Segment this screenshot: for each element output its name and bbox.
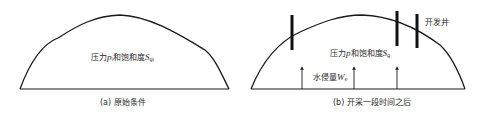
production-wells-label: 开发井: [425, 19, 449, 27]
panel-a-dome-outline: [20, 15, 229, 89]
label-text: 和饱和度: [351, 49, 383, 58]
label-text: 压力: [330, 49, 346, 58]
label-text: 水侵量: [313, 73, 337, 82]
panel-a-pressure-saturation-label: 压力pi和饱和度Sgi: [91, 53, 154, 62]
water-influx-label: 水侵量We: [313, 73, 348, 82]
saturation-subscript: g: [387, 52, 390, 58]
water-influx-subscript: e: [345, 76, 348, 82]
label-text: 和饱和度: [113, 53, 145, 62]
panel-b-pressure-saturation-label: 压力p和饱和度Sg: [330, 49, 390, 58]
water-influx-symbol: W: [337, 72, 345, 82]
label-text: 压力: [91, 53, 107, 62]
panel-a-caption: (a) 原始条件: [100, 99, 146, 107]
saturation-subscript: gi: [149, 56, 154, 62]
panel-a-reservoir: [20, 15, 229, 89]
panel-b-caption: (b) 开采一段时间之后: [333, 99, 411, 107]
